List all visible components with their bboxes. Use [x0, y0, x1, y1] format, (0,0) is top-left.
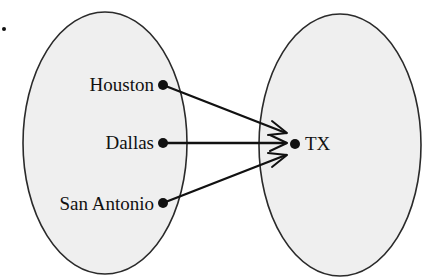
domain-label-dallas: Dallas	[105, 132, 154, 153]
domain-label-houston: Houston	[90, 74, 155, 95]
mapping-diagram: Houston Dallas San Antonio TX	[0, 0, 428, 280]
range-label-tx: TX	[305, 133, 331, 154]
figure-label-dot	[2, 27, 6, 31]
range-point-tx	[290, 139, 300, 149]
domain-label-san-antonio: San Antonio	[60, 193, 154, 214]
